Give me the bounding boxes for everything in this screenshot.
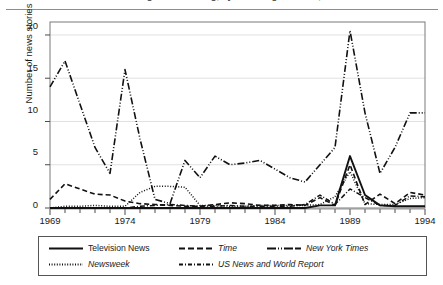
legend-item-time[interactable]: Time [179, 242, 237, 254]
series-line-newsweek [50, 172, 425, 208]
legend-label-us-news-and-world-report: US News and World Report [218, 259, 324, 269]
legend-item-television-news[interactable]: Television News [49, 242, 150, 254]
data-series-group [50, 31, 425, 208]
legend-label-time: Time [218, 243, 237, 253]
plot-frame [50, 22, 425, 208]
legend-swatch-solid-icon [49, 244, 83, 253]
legend-item-us-news-and-world-report[interactable]: US News and World Report [179, 258, 324, 270]
legend-swatch-dashdotdot-icon [267, 244, 301, 253]
series-line-new-york-times [50, 31, 425, 204]
legend-item-newsweek[interactable]: Newsweek [49, 258, 130, 270]
legend-swatch-dashdot-icon [179, 260, 213, 269]
legend-label-television-news: Television News [88, 243, 150, 253]
legend-label-new-york-times: New York Times [306, 243, 368, 253]
legend-label-newsweek: Newsweek [88, 259, 130, 269]
legend-swatch-dashed-icon [179, 244, 213, 253]
chart-legend: Television News Time New York Times News… [38, 236, 427, 276]
gridlines [50, 35, 425, 165]
legend-swatch-dotted-icon [49, 260, 83, 269]
figure-container: Number of news stories about global warm… [0, 0, 443, 285]
legend-item-new-york-times[interactable]: New York Times [267, 242, 368, 254]
